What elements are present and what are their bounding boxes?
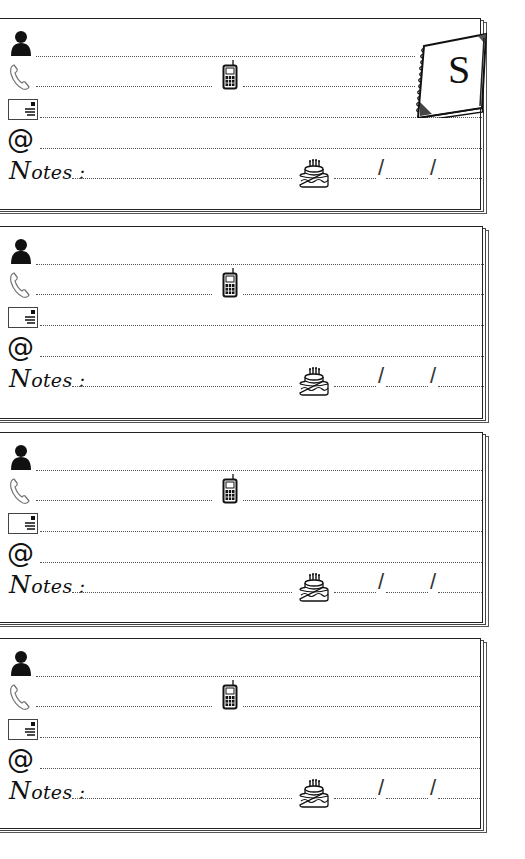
mobile-phone-icon [222,680,238,710]
notes-label-rest: otes : [31,161,85,183]
telephone-handset-icon [9,63,31,91]
envelope-icon [8,513,38,534]
notes-field[interactable] [72,178,292,179]
phone-field[interactable] [36,294,212,295]
birthday-cake-icon [298,572,330,602]
notes-field[interactable] [72,592,292,593]
address-field[interactable] [40,737,480,738]
person-icon [10,444,32,470]
birthday-month-field[interactable] [386,178,428,179]
person-icon [10,238,32,264]
birthday-day-field[interactable] [334,592,376,593]
notes-label: Notes : [9,776,86,805]
notes-label-rest: otes : [31,369,85,391]
birthday-year-field[interactable] [438,592,482,593]
mobile-phone-icon [222,268,238,298]
mobile-field[interactable] [243,86,415,87]
date-separator: / [430,569,436,595]
name-field[interactable] [36,264,484,265]
contact-card: @ Notes : / / [0,432,490,631]
date-separator: / [378,363,384,389]
date-separator: / [378,569,384,595]
phone-field[interactable] [36,706,212,707]
birthday-day-field[interactable] [334,798,376,799]
mobile-phone-icon [222,60,238,90]
name-field[interactable] [36,470,482,471]
notes-label-initial: N [9,364,31,393]
mobile-field[interactable] [243,294,484,295]
at-sign-icon: @ [7,124,34,154]
date-separator: / [430,363,436,389]
address-field[interactable] [40,325,484,326]
person-icon [10,650,32,676]
mobile-field[interactable] [243,706,480,707]
email-field[interactable] [40,562,482,563]
email-field[interactable] [40,148,484,149]
birthday-day-field[interactable] [334,386,376,387]
telephone-handset-icon [9,271,31,299]
at-sign-icon: @ [7,332,34,362]
birthday-month-field[interactable] [386,592,428,593]
birthday-year-field[interactable] [438,798,480,799]
email-field[interactable] [40,768,480,769]
email-field[interactable] [40,356,484,357]
birthday-year-field[interactable] [438,386,484,387]
birthday-month-field[interactable] [386,386,428,387]
person-icon [10,30,32,56]
notes-label-rest: otes : [31,575,85,597]
birthday-year-field[interactable] [438,178,484,179]
date-separator: / [378,775,384,801]
notes-label-initial: N [9,570,31,599]
birthday-cake-icon [298,778,330,808]
name-field[interactable] [36,676,480,677]
envelope-icon [8,719,38,740]
birthday-day-field[interactable] [334,178,376,179]
notes-label-rest: otes : [31,781,85,803]
notes-label: Notes : [9,570,86,599]
mobile-phone-icon [222,474,238,504]
at-sign-icon: @ [7,744,34,774]
contact-card: @ Notes : / / [0,638,488,837]
index-letter: S [448,46,470,93]
envelope-icon [8,99,38,120]
telephone-handset-icon [9,477,31,505]
phone-field[interactable] [36,86,212,87]
birthday-cake-icon [298,366,330,396]
notes-field[interactable] [72,386,292,387]
index-tab[interactable]: S [410,26,492,118]
notes-field[interactable] [72,798,292,799]
contact-card: @ Notes : / / [0,226,490,427]
phone-field[interactable] [36,500,212,501]
notes-label-initial: N [9,156,31,185]
telephone-handset-icon [9,683,31,711]
birthday-month-field[interactable] [386,798,428,799]
date-separator: / [430,775,436,801]
name-field[interactable] [36,56,415,57]
notes-label-initial: N [9,776,31,805]
birthday-cake-icon [298,158,330,188]
date-separator: / [430,155,436,181]
mobile-field[interactable] [243,500,482,501]
date-separator: / [378,155,384,181]
notes-label: Notes : [9,156,86,185]
envelope-icon [8,307,38,328]
at-sign-icon: @ [7,538,34,568]
address-field[interactable] [40,531,482,532]
notes-label: Notes : [9,364,86,393]
